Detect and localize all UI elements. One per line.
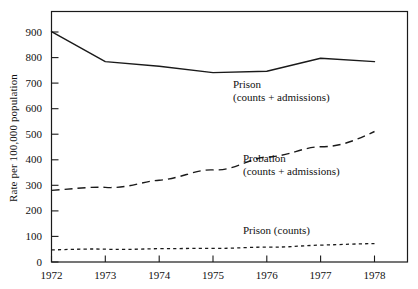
y-tick-label-0: 0 xyxy=(8,257,42,268)
x-tick-label-1974: 1974 xyxy=(136,270,182,281)
y-tick-label-800: 800 xyxy=(8,52,42,63)
x-tick-label-1973: 1973 xyxy=(82,270,128,281)
y-tick-label-100: 100 xyxy=(8,231,42,242)
y-tick-label-900: 900 xyxy=(8,27,42,38)
y-tick-label-500: 500 xyxy=(8,129,42,140)
series-line-prison-counts-admissions xyxy=(52,32,375,73)
y-tick-label-700: 700 xyxy=(8,78,42,89)
series-line-prison-counts xyxy=(52,244,375,250)
plot-frame xyxy=(52,12,408,263)
x-tick-label-1975: 1975 xyxy=(190,270,236,281)
x-tick-label-1977: 1977 xyxy=(298,270,344,281)
annotation-prison-line2: (counts + admissions) xyxy=(233,91,330,104)
annotation-prison-counts-admissions: Prison (counts + admissions) xyxy=(233,78,330,103)
y-tick-label-200: 200 xyxy=(8,205,42,216)
chart-figure: Rate per 100,000 population 0 100 200 30… xyxy=(0,0,418,289)
annotation-prison-counts-line1: Prison (counts) xyxy=(243,224,310,237)
annotation-probation-line1: Probation xyxy=(243,152,340,165)
annotation-prison-line1: Prison xyxy=(233,78,330,91)
y-tick-label-600: 600 xyxy=(8,103,42,114)
y-tick-label-400: 400 xyxy=(8,154,42,165)
x-tick-label-1972: 1972 xyxy=(29,270,75,281)
annotation-prison-counts: Prison (counts) xyxy=(243,224,310,237)
annotation-probation-line2: (counts + admissions) xyxy=(243,165,340,178)
y-tick-label-300: 300 xyxy=(8,180,42,191)
line-chart-plot xyxy=(0,0,418,289)
x-tick-label-1976: 1976 xyxy=(244,270,290,281)
x-tick-label-1978: 1978 xyxy=(352,270,398,281)
y-axis-ticks xyxy=(52,32,59,262)
annotation-probation-counts-admissions: Probation (counts + admissions) xyxy=(243,152,340,177)
x-axis-ticks xyxy=(52,256,375,263)
